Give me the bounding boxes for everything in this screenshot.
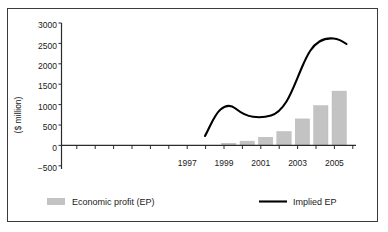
y-tick-label: 500	[43, 122, 57, 132]
chart-legend: Economic profit (EP) Implied EP	[47, 197, 337, 207]
legend-item-implied-ep: Implied EP	[259, 197, 337, 207]
x-tick-label: 2001	[251, 158, 270, 168]
economic-profit-chart: ($ million) 3000 2500 2000 1500 1000 500…	[8, 9, 377, 221]
x-tick-label: 2003	[288, 158, 307, 168]
legend-bar-swatch-icon	[47, 198, 65, 205]
y-tick-label: 2000	[38, 61, 57, 71]
y-tick-label: −500	[38, 163, 57, 173]
x-tick-label: 1997	[178, 158, 197, 168]
x-tick-labels: 1997 1999 2001 2003 2005	[178, 158, 344, 168]
x-tick-label: 2005	[325, 158, 344, 168]
legend-label: Economic profit (EP)	[72, 197, 155, 207]
y-tick-label: 1500	[38, 81, 57, 91]
y-tick-label: 2500	[38, 41, 57, 51]
y-tick-label: 0	[52, 143, 57, 153]
bar-2005	[332, 91, 346, 145]
legend-label: Implied EP	[293, 197, 337, 207]
bar-2000	[240, 141, 254, 145]
bar-2001	[258, 137, 272, 145]
bar-series-economic-profit	[222, 91, 347, 145]
y-axis-title: ($ million)	[13, 96, 23, 133]
y-tick-label: 3000	[38, 20, 57, 30]
bar-2003	[295, 119, 309, 145]
chart-frame: ($ million) 3000 2500 2000 1500 1000 500…	[7, 8, 378, 222]
y-tick-label: 1000	[38, 102, 57, 112]
y-tick-labels: 3000 2500 2000 1500 1000 500 0 −500	[38, 20, 57, 173]
bar-2004	[314, 106, 328, 146]
x-tick-label: 1999	[215, 158, 234, 168]
legend-item-economic-profit: Economic profit (EP)	[47, 197, 155, 207]
bar-2002	[277, 132, 291, 146]
